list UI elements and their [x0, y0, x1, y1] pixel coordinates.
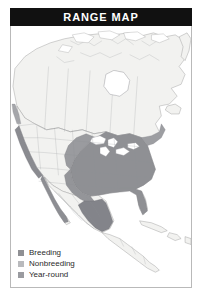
legend-item-breeding: Breeding	[18, 247, 75, 258]
square-swatch-icon	[18, 250, 24, 256]
card-titlebar: RANGE MAP	[10, 8, 192, 26]
range-map-card: RANGE MAP	[0, 0, 201, 301]
page-title: RANGE MAP	[63, 12, 138, 23]
map-legend: Breeding Nonbreeding Year-round	[18, 247, 75, 280]
map-panel: Breeding Nonbreeding Year-round	[10, 26, 192, 288]
legend-label-nonbreeding: Nonbreeding	[29, 258, 75, 269]
square-swatch-icon	[18, 272, 24, 278]
square-swatch-icon	[18, 261, 24, 267]
legend-item-nonbreeding: Nonbreeding	[18, 258, 75, 269]
legend-label-breeding: Breeding	[29, 247, 61, 258]
legend-item-year-round: Year-round	[18, 269, 75, 280]
legend-label-year-round: Year-round	[29, 269, 68, 280]
